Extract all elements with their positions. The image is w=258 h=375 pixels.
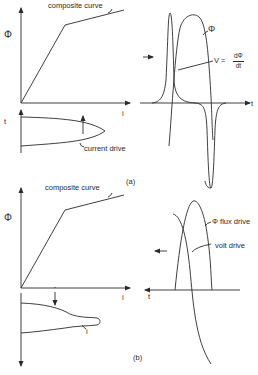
- panel-a-label: (a): [126, 178, 135, 186]
- panel-b-time-plot: [145, 181, 240, 364]
- volt-drive-label: volt drive: [215, 242, 245, 250]
- composite-curve-leader: [108, 9, 112, 13]
- i-axis-label-b: i: [122, 294, 124, 302]
- t-axis-label-a-right: t: [251, 100, 253, 108]
- v-equals-dphi-dt: dΦ dt: [233, 53, 244, 69]
- v-label-numerator: dΦ: [233, 53, 244, 62]
- panel-b-current-plot: [21, 292, 100, 366]
- composite-curve-label-b: composite curve: [45, 184, 100, 192]
- flux-drive-label: Φ flux drive: [212, 218, 250, 226]
- t-axis-label-a: t: [4, 118, 6, 126]
- v-label-prefix: V =: [214, 57, 225, 65]
- composite-curve-label-a: composite curve: [48, 2, 103, 10]
- phi-axis-label-b: Φ: [4, 213, 12, 223]
- composite-curve-leader-b: [108, 193, 112, 197]
- t-axis-label-b: t: [148, 293, 150, 301]
- phi-curve-label-a: Φ: [208, 25, 215, 34]
- panel-a-time-plot: [140, 13, 250, 188]
- voltage-curve: [152, 13, 226, 188]
- panel-a-phi-i-plot: [21, 8, 130, 103]
- current-drive-curve: [21, 117, 105, 146]
- composite-curve-b: [21, 195, 124, 288]
- current-drive-label: current drive: [84, 145, 126, 153]
- v-label-denominator: dt: [233, 62, 244, 70]
- current-label-b: i: [86, 328, 88, 336]
- phi-axis-label-a: Φ: [4, 30, 12, 40]
- panel-b-phi-i-plot: [21, 188, 130, 288]
- i-axis-label-a: i: [122, 110, 124, 118]
- v-leader: [178, 61, 213, 70]
- current-curve-b: [21, 303, 100, 333]
- composite-curve: [21, 10, 124, 103]
- volt-drive-curve: [173, 214, 211, 364]
- panel-b-label: (b): [133, 354, 142, 362]
- volt-leader: [192, 244, 211, 252]
